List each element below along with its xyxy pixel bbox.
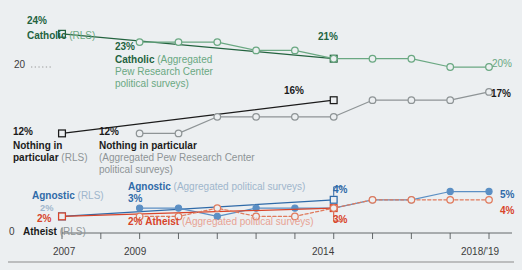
catholic-rls-source: (RLS): [69, 30, 95, 41]
agnostic-agg-name: Agnostic: [128, 181, 171, 192]
agnostic-rls-source: (RLS): [78, 190, 104, 201]
nothing-agg-name: Nothing in particular: [99, 140, 197, 152]
catholic-agg-end-value: 20%: [492, 58, 512, 70]
nothing-rls-end-value: 16%: [284, 85, 304, 97]
y-axis-label-20: 20: [14, 59, 25, 71]
atheist-agg-legend: 2% Atheist (Aggregated political surveys…: [128, 216, 314, 228]
axis-group: [62, 228, 512, 239]
catholic-agg-value: 23%: [115, 41, 135, 53]
x-axis-label-2018: 2018/'19: [461, 246, 499, 258]
nothing-agg-source-2: political surveys): [99, 164, 173, 176]
catholic-rls-legend: Catholic (RLS): [27, 30, 95, 42]
catholic-rls-end-value: 21%: [318, 31, 338, 43]
nothing-rls-source: (RLS): [61, 152, 87, 163]
agnostic-agg-legend: Agnostic (Aggregated political surveys): [128, 181, 305, 193]
atheist-rls-value: 2%: [37, 213, 51, 225]
x-axis-label-2009: 2009: [124, 246, 146, 258]
atheist-rls-legend: Atheist (RLS): [23, 226, 86, 238]
y-axis-label-0: 0: [9, 226, 15, 238]
chart-canvas: 20 0 2007 2009 2014 2018/'19 24% Catholi…: [0, 0, 522, 270]
catholic-agg-name: Catholic: [115, 54, 154, 65]
nothing-rls-name-1: Nothing in: [13, 140, 62, 152]
atheist-rls-name: Atheist: [23, 226, 57, 237]
atheist-rls-end-value: 3%: [333, 214, 347, 226]
nothing-rls-name-2: particular: [13, 152, 59, 163]
nothing-agg-source-1: (Aggregated Pew Research Center: [99, 152, 255, 164]
x-axis-label-2014: 2014: [312, 246, 334, 258]
agnostic-agg-source: (Aggregated political surveys): [174, 181, 306, 192]
agnostic-rls-name: Agnostic: [32, 190, 75, 201]
catholic-agg-source-3: political surveys): [115, 78, 189, 90]
x-axis-label-2007: 2007: [53, 246, 75, 258]
atheist-agg-source: (Aggregated political surveys): [182, 216, 314, 227]
agnostic-agg-value: 3%: [128, 193, 142, 205]
atheist-agg-value: 2%: [128, 216, 142, 227]
agnostic-rls-legend: Agnostic (RLS): [32, 190, 104, 202]
nothing-rls-value: 12%: [13, 126, 33, 138]
nothing-agg-value: 12%: [99, 126, 119, 138]
catholic-agg-source-1: (Aggregated: [157, 54, 212, 65]
catholic-rls-value: 24%: [27, 15, 47, 27]
catholic-agg-source-2: Pew Research Center: [115, 66, 213, 78]
nothing-rls-name-2-row: particular (RLS): [13, 152, 87, 164]
agnostic-agg-end-value: 5%: [500, 189, 514, 201]
agnostic-rls-end-value: 4%: [333, 184, 347, 196]
atheist-agg-name: Atheist: [145, 216, 179, 227]
catholic-agg-legend: Catholic (Aggregated: [115, 54, 212, 66]
atheist-agg-end-value: 4%: [500, 205, 514, 217]
atheist-rls-source: (RLS): [60, 226, 86, 237]
nothing-agg-end-value: 17%: [491, 88, 511, 100]
catholic-rls-name: Catholic: [27, 30, 66, 41]
